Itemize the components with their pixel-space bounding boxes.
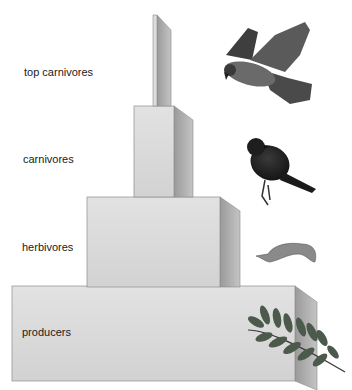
caterpillar-icon	[256, 243, 316, 262]
level-label-herbivores: herbivores	[22, 241, 73, 253]
top-carnivores-block	[153, 15, 171, 106]
carnivores-block	[134, 106, 193, 197]
level-label-top-carnivores: top carnivores	[24, 66, 93, 78]
producers-block	[12, 286, 317, 390]
herbivores-block	[87, 197, 240, 287]
hawk-icon	[222, 22, 312, 104]
level-label-carnivores: carnivores	[23, 153, 74, 165]
level-label-producers: producers	[22, 326, 71, 338]
songbird-icon	[245, 138, 316, 205]
